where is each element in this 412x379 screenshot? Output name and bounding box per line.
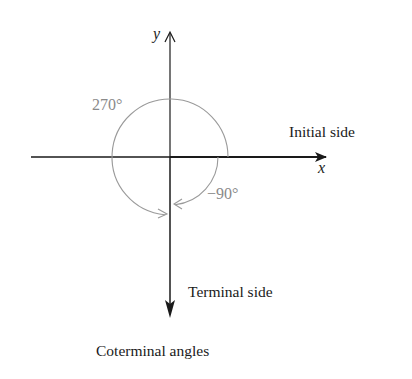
figure-caption: Coterminal angles bbox=[96, 343, 209, 359]
y-axis-label: y bbox=[153, 26, 160, 42]
x-axis-label: x bbox=[318, 160, 325, 176]
terminal-side-label: Terminal side bbox=[188, 284, 273, 300]
angle-label-negative-90: −90° bbox=[207, 186, 238, 202]
arc-270-arrowhead bbox=[158, 209, 167, 218]
angle-label-270: 270° bbox=[92, 97, 122, 113]
initial-side-label: Initial side bbox=[289, 124, 355, 140]
coterminal-angles-diagram bbox=[0, 0, 412, 379]
